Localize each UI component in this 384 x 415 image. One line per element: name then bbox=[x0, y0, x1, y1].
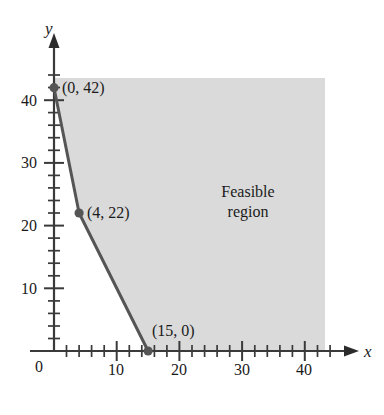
feasible-region-figure: y x 0 10 20 30 40 10 20 30 40 (0, 42) (4… bbox=[0, 0, 384, 415]
x-axis-title: x bbox=[364, 343, 372, 360]
x-tick-label-40: 40 bbox=[296, 362, 312, 378]
y-tick-label-10: 10 bbox=[21, 281, 37, 297]
origin-tick-label: 0 bbox=[35, 359, 43, 375]
vertex-label-0-42: (0, 42) bbox=[62, 80, 105, 96]
y-tick-label-30: 30 bbox=[21, 155, 37, 171]
feasible-region-label-line1: Feasible bbox=[221, 183, 274, 200]
x-axis-arrow-icon bbox=[344, 346, 359, 357]
vertex-dot-0-42 bbox=[49, 83, 58, 92]
vertex-label-4-22: (4, 22) bbox=[87, 205, 130, 221]
feasible-region-label: Feasible region bbox=[190, 182, 306, 222]
x-tick-label-20: 20 bbox=[171, 362, 187, 378]
vertex-dot-4-22 bbox=[75, 208, 84, 217]
x-tick-label-10: 10 bbox=[108, 362, 124, 378]
vertex-label-15-0: (15, 0) bbox=[152, 323, 195, 339]
feasible-region-label-line2: region bbox=[228, 203, 269, 220]
y-tick-label-20: 20 bbox=[21, 218, 37, 234]
vertex-dot-15-0 bbox=[144, 346, 153, 355]
y-axis-title: y bbox=[45, 20, 53, 37]
y-tick-label-40: 40 bbox=[21, 93, 37, 109]
x-tick-label-30: 30 bbox=[234, 362, 250, 378]
